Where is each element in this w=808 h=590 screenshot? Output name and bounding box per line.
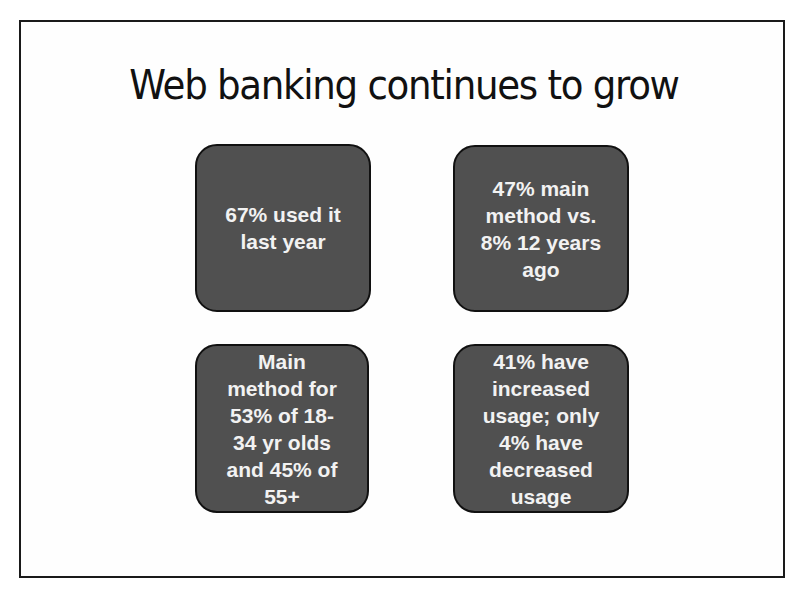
- stat-box-age-groups: Main method for 53% of 18- 34 yr olds an…: [195, 344, 369, 513]
- stat-box-text: 67% used it last year: [225, 201, 341, 255]
- stat-box-usage-change: 41% have increased usage; only 4% have d…: [453, 344, 629, 513]
- slide-title: Web banking continues to grow: [28, 60, 779, 110]
- stat-box-main-method: 47% main method vs. 8% 12 years ago: [453, 145, 629, 312]
- stat-box-text: 47% main method vs. 8% 12 years ago: [481, 175, 601, 283]
- stat-box-text: 41% have increased usage; only 4% have d…: [483, 348, 600, 510]
- stat-box-usage-last-year: 67% used it last year: [195, 144, 371, 312]
- stat-box-text: Main method for 53% of 18- 34 yr olds an…: [227, 348, 338, 510]
